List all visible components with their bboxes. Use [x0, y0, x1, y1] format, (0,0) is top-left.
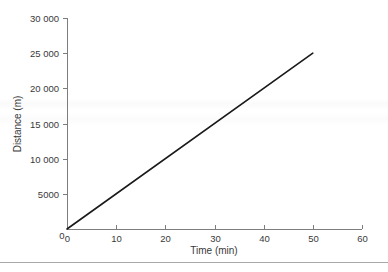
x-axis-tick-label: 10 — [111, 233, 122, 244]
y-axis-ticks — [63, 19, 67, 195]
bottom-divider-rule — [0, 262, 388, 263]
origin-tick-label: 0 — [59, 230, 64, 241]
y-axis-title: Distance (m) — [12, 96, 23, 153]
y-axis-tick-label: 30 000 — [30, 13, 59, 24]
y-axis-tick-label: 15 000 — [30, 119, 59, 130]
data-series-line — [67, 53, 313, 229]
chart-figure: 500010 00015 00020 00025 00030 0000 0102… — [0, 0, 388, 272]
y-axis-tick-label: 25 000 — [30, 48, 59, 59]
x-axis-tick-label: 50 — [308, 233, 319, 244]
data-series-group — [67, 53, 313, 229]
x-axis-title: Time (min) — [190, 245, 237, 256]
x-axis-ticks — [117, 225, 363, 229]
x-axis-tick-labels: 0102030405060 — [65, 233, 368, 244]
x-axis-tick-label: 0 — [65, 233, 70, 244]
x-axis-tick-label: 60 — [357, 233, 368, 244]
y-axis-tick-label: 10 000 — [30, 154, 59, 165]
line-chart-plot: 500010 00015 00020 00025 00030 0000 0102… — [0, 0, 388, 272]
x-axis-tick-label: 40 — [259, 233, 270, 244]
y-axis-tick-labels: 500010 00015 00020 00025 00030 0000 — [30, 13, 65, 241]
y-axis-tick-label: 5000 — [38, 189, 59, 200]
x-axis-tick-label: 30 — [210, 233, 221, 244]
y-axis-tick-label: 20 000 — [30, 83, 59, 94]
x-axis-tick-label: 20 — [160, 233, 171, 244]
